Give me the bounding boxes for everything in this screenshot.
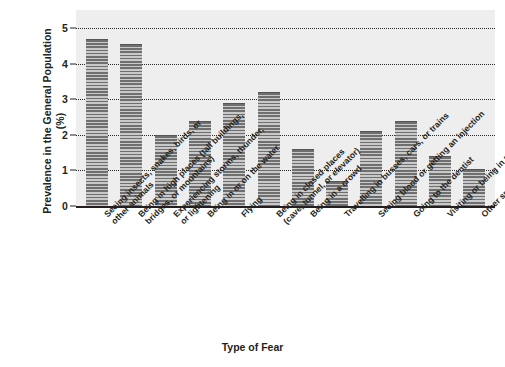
y-axis-title-line-1: Prevalence in the [41,127,53,213]
x-tick-label: Visiting or being in the hospital [445,212,452,219]
x-tick-label-line: (cave, tunnel, or elevator) [281,219,288,226]
x-tick-label: Other specific objects or situations [479,212,486,219]
x-tick-label-line: or lightening [178,219,185,226]
gridline-5 [76,28,495,29]
x-tick-label-line: Flying [239,212,246,219]
x-tick-label-line: Seeing blood or getting an injection [376,212,383,219]
y-axis-title-line-2: General Population (%) [41,28,66,129]
x-tick-label: Seeing insects, snakes, birds, orother a… [102,212,117,227]
x-tick-label-line: bridges, or mountains) [144,219,151,226]
x-tick-label-line: Other specific objects or situations [479,212,486,219]
x-tick-label-line: Being in or on the water [205,212,212,219]
x-tick-label-line: Experiencing storms, thunder, [171,212,178,219]
bar [86,39,108,206]
x-tick-label: Flying [239,212,246,219]
x-tick-label-line: Seeing insects, snakes, birds, or [102,212,109,219]
x-tick-label: Being in or on the water [205,212,212,219]
x-tick-label-line: Visiting or being in the hospital [445,212,452,219]
x-tick-label: Experiencing storms, thunder,or lighteni… [171,212,186,227]
y-axis-title: Prevalence in the General Population (%) [41,21,67,221]
x-axis-tick-labels: Seeing insects, snakes, birds, orother a… [0,206,505,346]
x-tick-label: Being in closed places(cave, tunnel, or … [274,212,289,227]
x-tick-label: Seeing blood or getting an injection [376,212,383,219]
x-tick-label: Travelling in busses, cars, or trains [342,212,349,219]
bar-chart-figure: 012345 Prevalence in the General Populat… [0,0,505,367]
x-tick-label: Being in high places (tall buildings,bri… [136,212,151,227]
x-tick-label: Being in a crowd [308,212,315,219]
x-tick-label-line: other animals [109,219,116,226]
x-tick-label-line: Being in closed places [274,212,281,219]
x-tick-label: Going to the dentist [411,212,418,219]
x-tick-label-line: Going to the dentist [411,212,418,219]
x-tick-label-line: Travelling in busses, cars, or trains [342,212,349,219]
x-tick-label-line: Being in a crowd [308,212,315,219]
x-axis-title: Type of Fear [0,341,505,353]
